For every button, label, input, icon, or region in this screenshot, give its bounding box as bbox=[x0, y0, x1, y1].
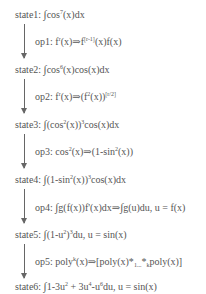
state-label: state1: bbox=[15, 9, 41, 20]
expr-part: cos(x)dx bbox=[91, 174, 126, 185]
expr-part: cos bbox=[55, 146, 68, 157]
op-4: op4: ∫g(f(x))f'(x)dx⇒∫g(u)du, u = f(x) bbox=[35, 201, 185, 214]
exponent: [r-1] bbox=[84, 36, 95, 42]
op-1: op1: fr(x)⇒f[r-1](x)f(x) bbox=[35, 36, 122, 48]
expr-part: (x)) bbox=[118, 146, 133, 157]
expr-part: (1-u bbox=[47, 229, 64, 240]
exponent: [r/2] bbox=[105, 91, 116, 97]
expr-part: du, u = sin(x) bbox=[73, 229, 127, 240]
expr-part: (x)⇒(f bbox=[61, 91, 88, 102]
expr-part: cos(x)dx bbox=[84, 119, 119, 130]
op-label: op5: bbox=[35, 256, 53, 267]
op-2: op2: fr(x)⇒(f2(x))[r/2] bbox=[35, 91, 116, 103]
arrow-down-5 bbox=[24, 244, 25, 278]
expr-part: g(f(x))f'(x)dx⇒ bbox=[58, 202, 120, 213]
state-label: state4: bbox=[15, 174, 41, 185]
expr-part: (x)⇒f bbox=[61, 36, 84, 47]
expr-part: 1-3u bbox=[47, 281, 65, 292]
state-2: state2: ∫cos6(x)cos(x)dx bbox=[15, 63, 110, 76]
op-label: op3: bbox=[35, 146, 53, 157]
arrow-down-4 bbox=[24, 189, 25, 223]
expr-part: + 3u bbox=[68, 281, 89, 292]
arrow-down-2 bbox=[24, 79, 25, 113]
state-1: state1: ∫cos7(x)dx bbox=[15, 8, 85, 21]
expr-part: poly(x)] bbox=[149, 256, 182, 267]
op-label: op1: bbox=[35, 36, 53, 47]
expr-part: (x)) bbox=[66, 119, 81, 130]
op-label: op2: bbox=[35, 91, 53, 102]
expr-part: (cos bbox=[47, 119, 64, 130]
expr-part: (x)cos(x)dx bbox=[63, 64, 110, 75]
state-label: state3: bbox=[15, 119, 41, 130]
op-3: op3: cos2(x)⇒(1-sin2(x)) bbox=[35, 146, 133, 158]
expr-part: (x)) bbox=[73, 174, 88, 185]
state-label: state6: bbox=[15, 281, 41, 292]
expr-part: du, u = sin(x) bbox=[103, 281, 157, 292]
expr-part: (x)dx bbox=[63, 9, 85, 20]
state-4: state4: ∫(1-sin2(x))3cos(x)dx bbox=[15, 173, 126, 186]
expr-part: (1-sin bbox=[47, 174, 70, 185]
state-5: state5: ∫(1-u2)3du, u = sin(x) bbox=[15, 228, 127, 241]
arrow-down-3 bbox=[24, 134, 25, 168]
op-5: op5: polyk(x)⇒[poly(x)*1...*kpoly(x)] bbox=[35, 256, 182, 268]
expr-part: (x)f(x) bbox=[95, 36, 122, 47]
state-label: state5: bbox=[15, 229, 41, 240]
expr-part: (x)) bbox=[90, 91, 105, 102]
expr-part: cos bbox=[47, 64, 60, 75]
op-label: op4: bbox=[35, 202, 53, 213]
expr-part: g(u)du, u = f(x) bbox=[123, 202, 185, 213]
expr-part: poly bbox=[55, 256, 73, 267]
state-3: state3: ∫(cos2(x))3cos(x)dx bbox=[15, 118, 119, 131]
state-6: state6: ∫1-3u2 + 3u4-u6du, u = sin(x) bbox=[15, 280, 157, 293]
expr-part: cos bbox=[47, 9, 60, 20]
arrow-down-1 bbox=[24, 24, 25, 58]
expr-part: -u bbox=[92, 281, 100, 292]
state-label: state2: bbox=[15, 64, 41, 75]
expr-part: (x)⇒[poly(x)* bbox=[76, 256, 134, 267]
expr-part: (x)⇒(1-sin bbox=[72, 146, 115, 157]
